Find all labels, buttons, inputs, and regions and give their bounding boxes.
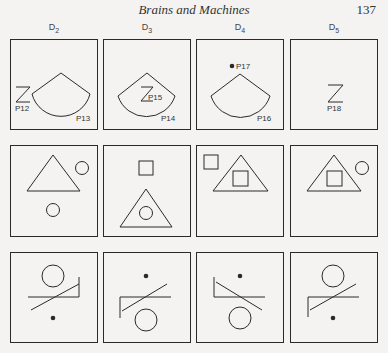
dot-icon (144, 274, 149, 279)
point-label-p13: P13 (76, 114, 91, 123)
sector-shape-icon (211, 74, 270, 117)
square-shape-icon (139, 161, 153, 175)
frame-r1-c2 (104, 40, 191, 130)
point-label-p15: P15 (148, 93, 163, 102)
circle-shape-icon (76, 162, 89, 175)
square-shape-icon (233, 171, 248, 186)
circle-shape-icon (229, 307, 251, 329)
triangle-shape-icon (27, 155, 80, 191)
circle-shape-icon (135, 309, 157, 331)
point-label-p14: P14 (161, 114, 176, 123)
square-shape-icon (327, 171, 342, 186)
circle-shape-icon (140, 207, 153, 220)
circle-shape-icon (47, 204, 60, 217)
sector-shape-icon (32, 73, 90, 116)
circle-shape-icon (42, 265, 64, 287)
dot-icon (238, 274, 243, 279)
diagonal-line-icon (216, 282, 262, 310)
dot-icon (230, 64, 235, 69)
dot-icon (331, 316, 336, 321)
square-shape-icon (204, 155, 218, 169)
circle-shape-icon (356, 162, 369, 175)
figure-grid: P12 P13 P14 P15 P16 P17 P18 (0, 0, 388, 353)
point-label-p18: P18 (327, 104, 342, 113)
z-shape-icon (328, 85, 343, 102)
triangle-shape-icon (120, 189, 172, 227)
point-label-p17: P17 (236, 62, 251, 71)
dot-icon (51, 316, 56, 321)
z-shape-icon (16, 87, 30, 102)
bracket-line-icon (214, 277, 265, 297)
circle-shape-icon (322, 265, 344, 287)
point-label-p12: P12 (15, 104, 30, 113)
point-label-p16: P16 (257, 114, 272, 123)
